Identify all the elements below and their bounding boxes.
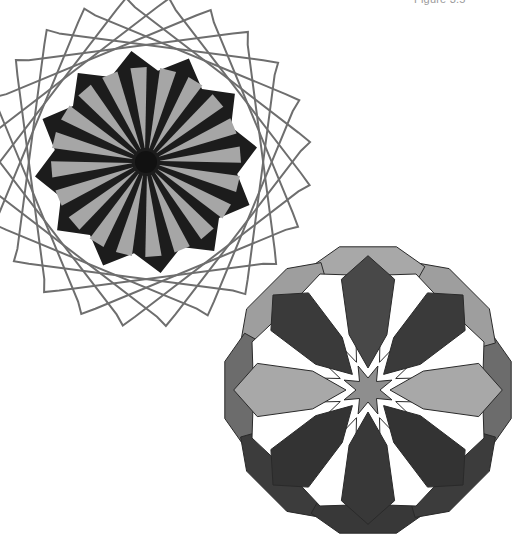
figure-1-star-rosette [0,0,310,326]
figure-canvas [0,0,515,539]
figure-1-center-hub [135,151,157,173]
figure-2-petal-rosette [225,247,511,533]
